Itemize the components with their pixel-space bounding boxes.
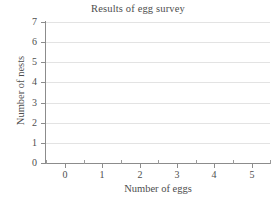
x-tick-minor-1-2 bbox=[121, 160, 122, 164]
plot-area bbox=[46, 22, 270, 163]
x-tick-minor-left-edge bbox=[46, 160, 47, 164]
y-tick-0 bbox=[41, 163, 45, 164]
x-axis-title: Number of eggs bbox=[46, 183, 270, 194]
chart-title: Results of egg survey bbox=[0, 3, 276, 14]
gridline-y6 bbox=[46, 42, 270, 43]
y-tick-1 bbox=[41, 143, 45, 144]
x-tick-1 bbox=[102, 164, 103, 168]
gridline-y2 bbox=[46, 123, 270, 124]
y-axis-title: Number of nests bbox=[15, 16, 26, 166]
x-tick-0 bbox=[65, 164, 66, 168]
y-tick-4 bbox=[41, 82, 45, 83]
y-tick-7 bbox=[41, 22, 45, 23]
x-tick-label-0: 0 bbox=[57, 169, 73, 180]
x-tick-label-4: 4 bbox=[206, 169, 222, 180]
y-tick-6 bbox=[41, 42, 45, 43]
y-tick-2 bbox=[41, 123, 45, 124]
gridline-y7 bbox=[46, 22, 270, 23]
egg-survey-chart: Results of egg survey 7 6 5 4 3 2 1 0 0 … bbox=[0, 0, 276, 204]
x-tick-5 bbox=[252, 164, 253, 168]
x-tick-label-3: 3 bbox=[169, 169, 185, 180]
gridline-y5 bbox=[46, 62, 270, 63]
x-tick-2 bbox=[140, 164, 141, 168]
y-tick-5 bbox=[41, 62, 45, 63]
gridline-y1 bbox=[46, 143, 270, 144]
x-tick-4 bbox=[214, 164, 215, 168]
x-tick-label-1: 1 bbox=[94, 169, 110, 180]
x-tick-minor-0-1 bbox=[84, 160, 85, 164]
y-tick-3 bbox=[41, 103, 45, 104]
x-tick-minor-2-3 bbox=[158, 160, 159, 164]
x-tick-label-2: 2 bbox=[132, 169, 148, 180]
gridline-y4 bbox=[46, 82, 270, 83]
x-tick-3 bbox=[177, 164, 178, 168]
x-tick-label-5: 5 bbox=[244, 169, 260, 180]
gridline-y3 bbox=[46, 103, 270, 104]
x-tick-minor-3-4 bbox=[196, 160, 197, 164]
x-tick-minor-right-edge bbox=[270, 160, 271, 164]
y-axis-spine bbox=[45, 21, 46, 164]
x-tick-minor-4-5 bbox=[233, 160, 234, 164]
